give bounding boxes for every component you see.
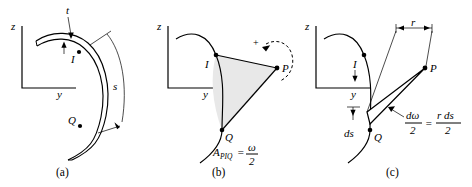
equation-rhs-numerator-c: r ds	[437, 109, 454, 121]
panel-caption-a: (a)	[56, 166, 69, 179]
point-p-label-c: P	[429, 62, 437, 74]
point-q-marker-b	[220, 128, 225, 133]
panel-caption-b: (b)	[212, 166, 226, 179]
point-p-label-b: P	[281, 62, 289, 74]
axis-label-y-a: y	[56, 88, 62, 100]
point-q-marker-a	[78, 124, 82, 128]
axis-label-y-c: y	[350, 88, 356, 100]
point-i-marker-c	[362, 53, 367, 58]
point-p-marker-c	[423, 66, 428, 71]
equation-denominator-b: 2	[249, 155, 255, 167]
point-q-label-a: Q	[68, 114, 76, 126]
panel-caption-c: (c)	[386, 166, 399, 179]
equation-rhs-denominator-c: 2	[445, 124, 451, 136]
equation-equals-c: =	[425, 117, 432, 129]
label-radius-r: r	[411, 16, 416, 28]
sign-plus-b: +	[253, 37, 259, 48]
equation-lhs-numerator-c: dω	[406, 109, 420, 121]
equation-lhs-subscript-b: PIQ	[219, 152, 233, 161]
label-arc-element-ds: ds	[344, 127, 354, 139]
axis-label-z-b: z	[156, 20, 162, 32]
equation-equals-b: =	[237, 146, 244, 158]
point-q-label-c: Q	[374, 131, 382, 143]
axis-label-z-a: z	[10, 20, 16, 32]
point-q-label-b: Q	[225, 131, 233, 143]
axis-label-z-c: z	[304, 20, 310, 32]
equation-lhs-symbol-b: A	[212, 146, 220, 158]
label-arc-length-s: s	[113, 80, 117, 92]
point-i-marker-b	[214, 53, 219, 58]
figure-three-panel-diagram: z y t I Q s (a) z y	[0, 0, 472, 187]
equation-lhs-denominator-c: 2	[410, 124, 416, 136]
point-q-marker-c	[368, 128, 373, 133]
point-i-marker-a	[77, 50, 81, 54]
point-p-marker-b	[275, 66, 280, 71]
equation-numerator-b: ω	[248, 141, 256, 153]
axis-label-y-b: y	[202, 88, 208, 100]
